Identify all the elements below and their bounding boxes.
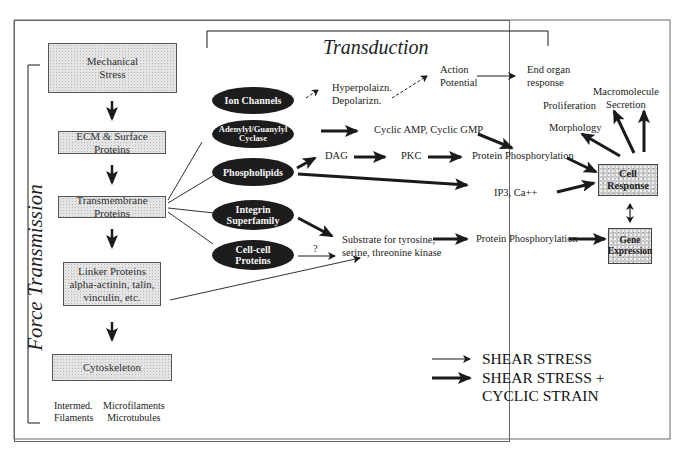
- pkc-label: PKC: [401, 150, 421, 163]
- substrate-kinase-label: Substrate for tyrosine, serine, threonin…: [342, 234, 441, 259]
- question-mark-label: ?: [313, 243, 318, 256]
- linker-proteins-box: Linker Proteins alpha-actinin, talin, vi…: [63, 262, 161, 306]
- legend-shear-stress: SHEAR STRESS: [482, 350, 592, 368]
- protein-phosphorylation-label-2: Protein Phosphorylation: [476, 233, 578, 246]
- mechanical-stress-box: Mechanical Stress: [48, 43, 177, 93]
- cytoskeleton-box: Cytoskeleton: [52, 354, 172, 381]
- morphology-label: Morphology: [549, 122, 602, 135]
- cell-cell-proteins-oval: Cell-cell Proteins: [212, 240, 294, 270]
- action-potential-label: Action Potential: [440, 64, 477, 89]
- intermediate-filaments-label: Intermed. Filaments: [54, 400, 93, 424]
- microfilaments-microtubules-label: Microfilaments Microtubules: [103, 400, 165, 424]
- transmembrane-proteins-box: Transmembrane Proteins: [58, 196, 166, 218]
- ip3-ca-label: IP3, Ca++: [494, 187, 537, 200]
- hyperpolarization-label: Hyperpolaizn. Depolarizn.: [332, 82, 392, 107]
- box-line: Transmembrane Proteins: [59, 194, 165, 220]
- gene-expression-box: Gene Expression: [608, 228, 652, 264]
- box-line: ECM & Surface Proteins: [59, 130, 165, 156]
- proliferation-label: Proliferation: [543, 100, 596, 113]
- cell-response-box: Cell Response: [598, 164, 658, 196]
- end-organ-response-label: End organ response: [527, 64, 570, 89]
- adenylyl-guanylyl-cyclase-oval: Adenylyl/Guanylyl Cyclase: [212, 120, 294, 148]
- box-line: alpha-actinin, talin,: [69, 278, 154, 291]
- force-transmission-title: Force Transmission: [23, 178, 48, 358]
- ion-channels-oval: Ion Channels: [212, 87, 294, 114]
- box-line: Linker Proteins: [78, 265, 146, 278]
- phospholipids-oval: Phospholipids: [212, 158, 294, 186]
- transduction-title: Transduction: [323, 36, 429, 59]
- box-line: vinculin, etc.: [83, 291, 140, 304]
- ecm-surface-proteins-box: ECM & Surface Proteins: [58, 131, 166, 154]
- legend-shear-stress-cyclic-strain: SHEAR STRESS + CYCLIC STRAIN: [482, 369, 604, 405]
- dag-label: DAG: [325, 150, 348, 163]
- protein-phosphorylation-label-1: Protein Phosphorylation: [472, 150, 574, 163]
- cyclic-amp-gmp-label: Cyclic AMP, Cyclic GMP: [374, 124, 483, 137]
- integrin-superfamily-oval: Integrin Superfamily: [212, 200, 294, 230]
- macromolecule-secretion-label: Macromolecule Secretion: [593, 86, 659, 111]
- box-line: Mechanical: [87, 55, 138, 68]
- box-line: Stress: [99, 68, 125, 81]
- box-line: Cytoskeleton: [83, 361, 141, 374]
